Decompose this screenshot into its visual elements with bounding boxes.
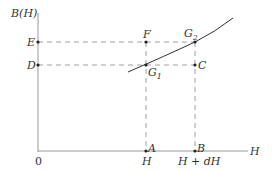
label-G2: G2 xyxy=(184,28,198,42)
x-tick-H: H xyxy=(142,156,152,167)
x-axis-label: H xyxy=(250,146,260,157)
label-C: C xyxy=(198,60,206,71)
label-A: A xyxy=(148,143,156,154)
origin-label: 0 xyxy=(35,156,42,167)
point-D xyxy=(36,63,39,66)
label-E: E xyxy=(27,37,35,48)
label-G1: G1 xyxy=(148,67,162,81)
label-F: F xyxy=(143,29,151,40)
label-G2-base: G xyxy=(184,27,193,40)
label-G1-base: G xyxy=(148,66,157,79)
label-B: B xyxy=(197,143,205,154)
curve-B-of-H xyxy=(128,18,233,72)
label-D: D xyxy=(27,60,36,71)
x-tick-H-plus-dH: H + dH xyxy=(178,156,220,167)
label-G2-sub: 2 xyxy=(193,33,198,42)
point-C xyxy=(193,63,196,66)
y-axis-label: B(H) xyxy=(11,8,37,19)
point-E xyxy=(36,40,39,43)
diagram-canvas xyxy=(0,0,272,172)
label-G1-sub: 1 xyxy=(157,72,162,81)
